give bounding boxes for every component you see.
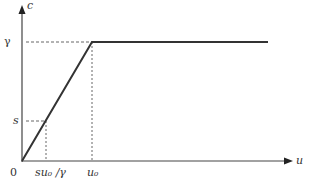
gamma-tick-label: γ [4, 36, 11, 47]
origin-label: 0 [10, 167, 17, 178]
s-tick-label: s [13, 115, 19, 126]
s-point-tick-label: su₀ /γ [35, 167, 66, 178]
x-axis-arrow-icon [284, 158, 293, 165]
curve [22, 42, 268, 161]
y-axis-arrow-icon [19, 5, 26, 14]
y-axis-label: c [27, 0, 33, 11]
u0-tick-label: u₀ [87, 167, 99, 178]
diagram-canvas [0, 0, 315, 184]
x-axis-label: u [296, 155, 303, 166]
